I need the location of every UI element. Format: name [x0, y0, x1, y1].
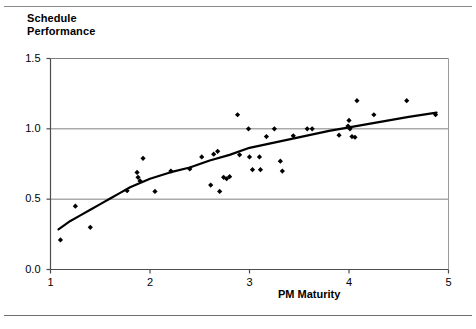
- scatter-point: [310, 126, 315, 131]
- axis-ticks-group: [47, 59, 449, 274]
- scatter-point: [211, 152, 216, 157]
- scatter-point: [257, 154, 262, 159]
- scatter-point: [404, 98, 409, 103]
- x-tick-label: 5: [441, 276, 457, 288]
- scatter-point: [246, 126, 251, 131]
- scatter-point: [235, 112, 240, 117]
- scatter-point: [134, 170, 139, 175]
- x-tick-label: 1: [43, 276, 59, 288]
- scatter-point: [272, 126, 277, 131]
- scatter-point: [305, 126, 310, 131]
- scatter-point: [250, 167, 255, 172]
- scatter-point: [58, 237, 63, 242]
- scatter-point: [371, 112, 376, 117]
- y-tick-label: 0.5: [15, 192, 41, 204]
- chart-figure: Schedule Performance 0.00.51.01.5 12345 …: [0, 0, 476, 329]
- scatter-point: [336, 133, 341, 138]
- scatter-point: [217, 189, 222, 194]
- scatter-point: [278, 159, 283, 164]
- scatter-point: [247, 154, 252, 159]
- axis-lines-group: [51, 59, 449, 270]
- scatter-point: [258, 167, 263, 172]
- x-axis-title: PM Maturity: [278, 288, 340, 300]
- y-tick-label: 1.0: [15, 122, 41, 134]
- scatter-point: [199, 154, 204, 159]
- scatter-point: [280, 168, 285, 173]
- scatter-points-group: [58, 98, 438, 242]
- y-tick-label: 1.5: [15, 52, 41, 64]
- scatter-point: [215, 149, 220, 154]
- scatter-point: [152, 189, 157, 194]
- scatter-point: [354, 98, 359, 103]
- x-tick-label: 2: [142, 276, 158, 288]
- x-tick-label: 4: [341, 276, 357, 288]
- scatter-point: [208, 183, 213, 188]
- scatter-point: [140, 156, 145, 161]
- scatter-point: [264, 134, 269, 139]
- scatter-point: [88, 225, 93, 230]
- y-tick-label: 0.0: [15, 263, 41, 275]
- plot-area: [0, 0, 476, 329]
- scatter-point: [73, 204, 78, 209]
- scatter-point: [346, 118, 351, 123]
- x-tick-label: 3: [242, 276, 258, 288]
